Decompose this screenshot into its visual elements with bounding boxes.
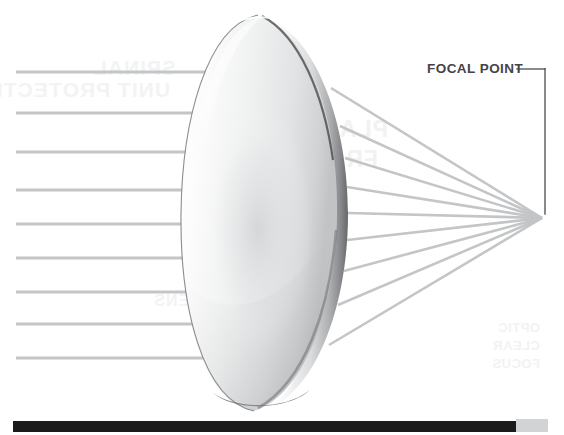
refracted-ray-7	[344, 218, 542, 271]
refracted-ray-group	[329, 88, 542, 345]
focal-point-leader-line	[517, 69, 545, 214]
diagram-canvas: SPINAL UNIT PROTECTION PLASTIC FRAME LEN…	[0, 0, 564, 435]
footer-rule-tail	[516, 419, 548, 432]
refracted-ray-8	[338, 218, 542, 305]
refracted-ray-1	[331, 88, 542, 218]
focal-point-label: FOCAL POINT	[427, 61, 523, 77]
refracted-ray-9	[329, 218, 542, 345]
refracted-ray-3	[345, 158, 542, 218]
convex-lens	[181, 15, 348, 411]
refracted-ray-2	[340, 126, 542, 218]
footer-rule	[13, 421, 516, 432]
